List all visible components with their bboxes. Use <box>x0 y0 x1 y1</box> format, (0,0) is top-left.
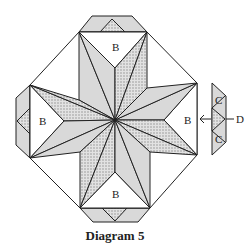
diagram-caption: Diagram 5 <box>0 228 230 244</box>
label-b-right: B <box>184 114 191 126</box>
bottom-border-piece <box>80 208 150 222</box>
label-b-bottom: B <box>112 188 119 200</box>
arrow-left-icon <box>200 115 211 123</box>
left-border-piece <box>16 85 30 158</box>
top-border-piece <box>79 16 147 32</box>
label-c-upper: C <box>215 94 222 106</box>
label-d: D <box>236 113 244 125</box>
label-b-left: B <box>39 115 46 127</box>
label-b-top: B <box>112 41 119 53</box>
label-c-lower: C <box>215 133 222 145</box>
quilt-diagram: B B B B C C D <box>0 0 252 245</box>
